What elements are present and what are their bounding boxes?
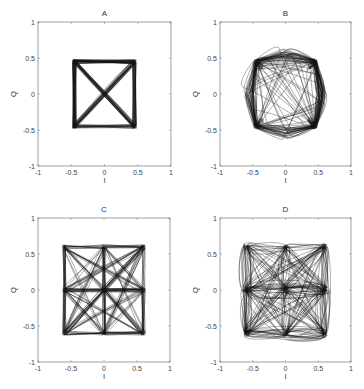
y-tick-label: -0.5 — [23, 127, 35, 134]
x-tick-label: -1 — [217, 169, 223, 176]
x-tick-label: -1 — [217, 365, 223, 372]
x-tick-label: 0 — [102, 365, 106, 372]
x-tick-label: -1 — [35, 365, 41, 372]
x-axis-label: I — [284, 176, 286, 185]
y-tick-label: 0.5 — [25, 55, 35, 62]
y-tick-label: 1 — [31, 215, 35, 222]
y-tick-label: 0 — [213, 287, 217, 294]
x-tick-label: 0.5 — [313, 365, 323, 372]
x-tick-label: -1 — [35, 169, 41, 176]
axes-frame — [220, 22, 351, 166]
panel-title: A — [102, 9, 108, 18]
y-tick-label: -1 — [211, 163, 217, 170]
x-tick-label: -0.5 — [247, 169, 259, 176]
y-tick-label: 1 — [213, 215, 217, 222]
y-tick-label: 1 — [213, 19, 217, 26]
x-tick-label: 0 — [284, 169, 288, 176]
x-tick-label: 1 — [169, 169, 173, 176]
x-tick-label: -0.5 — [65, 169, 77, 176]
y-tick-label: 0.5 — [207, 251, 217, 258]
panel-b: -1-0.500.51-1-0.500.51BIQ — [191, 9, 353, 185]
y-tick-label: 0.5 — [25, 251, 35, 258]
panel-title: C — [101, 205, 107, 214]
y-tick-label: 0 — [213, 91, 217, 98]
x-tick-label: 1 — [168, 365, 172, 372]
x-tick-label: 0.5 — [313, 169, 323, 176]
x-tick-label: -0.5 — [247, 365, 259, 372]
figure: -1-0.500.51-1-0.500.51AIQ-1-0.500.51-1-0… — [0, 0, 364, 389]
y-axis-label: Q — [9, 91, 18, 97]
x-tick-label: 1 — [349, 365, 353, 372]
x-tick-label: 1 — [349, 169, 353, 176]
x-tick-label: 0 — [103, 169, 107, 176]
x-tick-label: 0.5 — [133, 169, 143, 176]
y-tick-label: 0 — [31, 287, 35, 294]
panel-title: B — [283, 9, 288, 18]
panel-a: -1-0.500.51-1-0.500.51AIQ — [9, 9, 173, 185]
y-tick-label: 1 — [31, 19, 35, 26]
y-tick-label: -1 — [211, 359, 217, 366]
y-tick-label: -1 — [29, 359, 35, 366]
y-tick-label: -0.5 — [23, 323, 35, 330]
panel-title: D — [283, 205, 289, 214]
panel-d: -1-0.500.51-1-0.500.51DIQ — [191, 205, 353, 381]
x-tick-label: 0 — [284, 365, 288, 372]
y-tick-label: 0.5 — [207, 55, 217, 62]
x-axis-label: I — [284, 372, 286, 381]
y-axis-label: Q — [9, 287, 18, 293]
x-tick-label: -0.5 — [65, 365, 77, 372]
panel-c: -1-0.500.51-1-0.500.51CIQ — [9, 205, 172, 381]
y-axis-label: Q — [191, 91, 200, 97]
x-axis-label: I — [103, 176, 105, 185]
x-tick-label: 0.5 — [132, 365, 142, 372]
y-tick-label: -0.5 — [205, 127, 217, 134]
y-axis-label: Q — [191, 287, 200, 293]
y-tick-label: 0 — [31, 91, 35, 98]
y-tick-label: -0.5 — [205, 323, 217, 330]
y-tick-label: -1 — [29, 163, 35, 170]
x-axis-label: I — [103, 372, 105, 381]
